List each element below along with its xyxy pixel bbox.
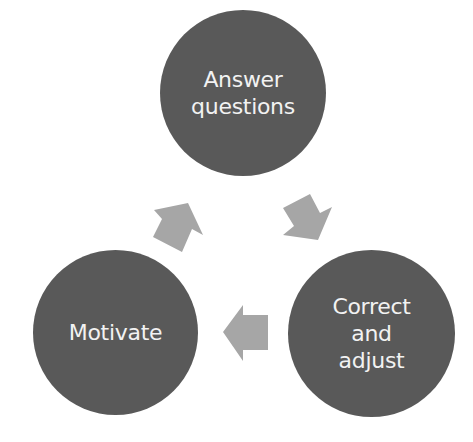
arrow-motivate-to-answer-icon — [153, 203, 203, 252]
arrow-answer-to-correct-icon — [283, 194, 332, 240]
arrow-correct-to-motivate-icon — [223, 305, 268, 361]
cycle-arrows — [0, 0, 473, 442]
